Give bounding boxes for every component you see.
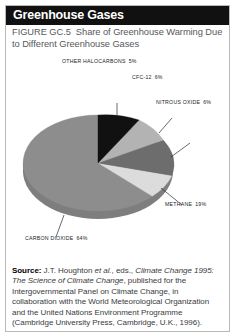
pie-label-nitrous-oxide-name: NITROUS OXIDE <box>156 99 200 105</box>
pie-label-nitrous-oxide-pct: 6% <box>203 99 211 105</box>
pie-label-carbon-dioxide-name: CARBON DIOXIDE <box>25 235 73 241</box>
pie-label-methane-name: METHANE <box>165 201 192 207</box>
source-eds: , eds., <box>112 266 136 275</box>
leader-line-cfc-12 <box>159 118 172 133</box>
pie-svg <box>20 85 220 255</box>
figure-title-bar: Greenhouse Gases <box>6 6 229 25</box>
leader-line-carbon-dioxide <box>56 215 64 237</box>
pie-label-cfc-12-pct: 6% <box>155 74 163 80</box>
figure-caption: FIGURE GC.5Share of Greenhouse Warming D… <box>12 27 226 50</box>
leader-line-nitrous-oxide <box>171 143 190 157</box>
page-title: Greenhouse Gases <box>13 8 124 22</box>
pie-label-other-halocarbons-name: OTHER HALOCARBONS <box>62 58 126 64</box>
figure-number: FIGURE GC.5 <box>12 27 71 37</box>
source-note: Source: J.T. Houghton et al., eds., Clim… <box>12 266 224 328</box>
frame-border-right <box>229 5 230 331</box>
pie-label-other-halocarbons: OTHER HALOCARBONS5% <box>62 58 137 64</box>
pie-label-methane: METHANE19% <box>165 201 206 207</box>
pie-label-carbon-dioxide-pct: 64% <box>76 235 87 241</box>
frame-border-bottom <box>5 331 230 332</box>
pie-label-cfc-12: CFC-126% <box>132 74 163 80</box>
pie-label-methane-pct: 19% <box>195 201 206 207</box>
pie-chart: OTHER HALOCARBONS5% CFC-126% NITROUS OXI… <box>6 55 229 255</box>
source-label: Source: <box>12 266 41 275</box>
pie-label-nitrous-oxide: NITROUS OXIDE6% <box>156 99 211 105</box>
figure-container: Greenhouse Gases FIGURE GC.5Share of Gre… <box>0 0 235 336</box>
pie-label-other-halocarbons-pct: 5% <box>129 58 137 64</box>
source-etal: et al. <box>95 266 112 275</box>
pie-label-cfc-12-name: CFC-12 <box>132 74 152 80</box>
source-author: J.T. Houghton <box>41 266 94 275</box>
pie-graphic <box>20 85 170 235</box>
pie-label-carbon-dioxide: CARBON DIOXIDE64% <box>25 235 88 241</box>
